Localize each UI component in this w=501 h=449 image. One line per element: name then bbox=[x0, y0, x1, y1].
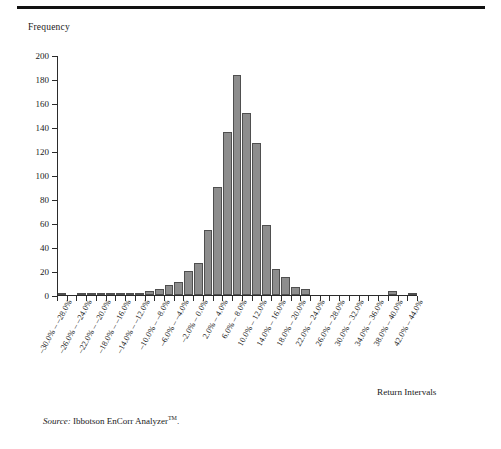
trademark-icon: TM bbox=[168, 415, 177, 421]
x-axis-title: Return Intervals bbox=[377, 387, 436, 397]
bar bbox=[272, 269, 281, 295]
y-axis-tick-label: 60 bbox=[19, 219, 49, 229]
bar bbox=[262, 225, 271, 295]
y-axis-tick bbox=[52, 56, 58, 57]
y-axis-tick bbox=[52, 128, 58, 129]
bar bbox=[126, 293, 135, 295]
y-axis-tick bbox=[52, 248, 58, 249]
y-axis-tick-label: 140 bbox=[19, 123, 49, 133]
bar bbox=[194, 263, 203, 295]
bar bbox=[77, 293, 86, 295]
y-axis-tick-label: 0 bbox=[19, 291, 49, 301]
bar bbox=[174, 282, 183, 295]
y-axis-tick bbox=[52, 104, 58, 105]
bar bbox=[135, 293, 144, 295]
bar bbox=[213, 187, 222, 295]
y-axis-tick bbox=[52, 224, 58, 225]
y-axis-tick-label: 160 bbox=[19, 99, 49, 109]
source-period: . bbox=[177, 416, 179, 426]
y-axis-tick bbox=[52, 80, 58, 81]
y-axis-tick-label: 120 bbox=[19, 147, 49, 157]
y-axis-title: Frequency bbox=[28, 22, 70, 32]
bar bbox=[145, 291, 154, 295]
bar bbox=[408, 293, 417, 295]
bar bbox=[223, 132, 232, 295]
bar bbox=[106, 293, 115, 295]
top-rule-divider bbox=[17, 6, 485, 9]
x-axis-line bbox=[57, 295, 417, 296]
chart-plot-area: 020406080100120140160180200 bbox=[57, 56, 417, 296]
bar bbox=[388, 291, 397, 295]
source-caption: Source: Ibbotson EnCorr AnalyzerTM. bbox=[43, 415, 179, 426]
y-axis-tick-label: 40 bbox=[19, 243, 49, 253]
bar bbox=[165, 285, 174, 295]
bar bbox=[204, 230, 213, 295]
bar bbox=[301, 289, 310, 295]
source-label: Source: bbox=[43, 416, 71, 426]
y-axis-tick-label: 200 bbox=[19, 51, 49, 61]
y-axis-tick bbox=[52, 200, 58, 201]
bar bbox=[281, 277, 290, 295]
x-axis-tick-labels: –30.0% – –28.0%–26.0% – –24.0%–22.0% – –… bbox=[57, 298, 457, 378]
y-axis-tick bbox=[52, 272, 58, 273]
source-name: Ibbotson EnCorr Analyzer bbox=[71, 416, 168, 426]
y-axis-tick bbox=[52, 176, 58, 177]
y-axis-tick bbox=[52, 152, 58, 153]
bar bbox=[233, 75, 242, 295]
bar bbox=[58, 293, 67, 295]
bar bbox=[116, 293, 125, 295]
y-axis-tick-label: 100 bbox=[19, 171, 49, 181]
bar bbox=[87, 293, 96, 295]
bar bbox=[291, 287, 300, 295]
bar bbox=[242, 113, 251, 295]
y-axis-tick-label: 20 bbox=[19, 267, 49, 277]
bar bbox=[155, 289, 164, 295]
y-axis-tick-label: 180 bbox=[19, 75, 49, 85]
bar bbox=[97, 293, 106, 295]
bar bbox=[184, 271, 193, 295]
figure-page: Frequency 020406080100120140160180200 –3… bbox=[0, 0, 501, 449]
y-axis-tick-label: 80 bbox=[19, 195, 49, 205]
bar bbox=[252, 143, 261, 295]
